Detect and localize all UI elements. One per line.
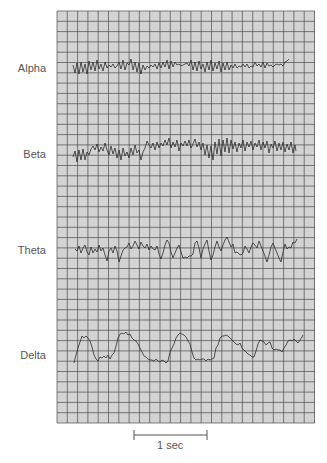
scale-bar-label: 1 sec (157, 439, 183, 451)
wave-label-beta: Beta (0, 148, 46, 160)
wave-label-alpha: Alpha (0, 62, 46, 74)
wave-label-delta: Delta (0, 349, 46, 361)
wave-label-theta: Theta (0, 244, 46, 256)
eeg-figure (0, 0, 327, 463)
grid-paper (57, 11, 315, 423)
